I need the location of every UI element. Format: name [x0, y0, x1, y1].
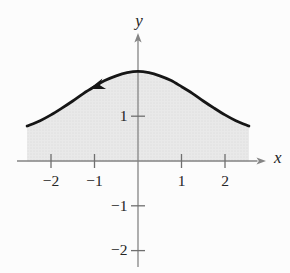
x-axis-label: x — [273, 148, 282, 167]
y-tick-label: −2 — [111, 241, 128, 258]
x-axis-arrowhead-icon — [257, 157, 267, 164]
y-tick-label: 1 — [120, 107, 128, 124]
y-tick-label: −1 — [111, 197, 128, 214]
y-axis-label: y — [133, 11, 143, 30]
x-tick-label: −2 — [43, 172, 60, 189]
x-tick-label: 1 — [178, 172, 186, 189]
figure-container: −2−1121−1−2 x y — [0, 0, 290, 273]
x-tick-label: −1 — [86, 172, 103, 189]
plot-canvas: −2−1121−1−2 x y — [0, 0, 290, 273]
x-tick-label: 2 — [221, 172, 229, 189]
